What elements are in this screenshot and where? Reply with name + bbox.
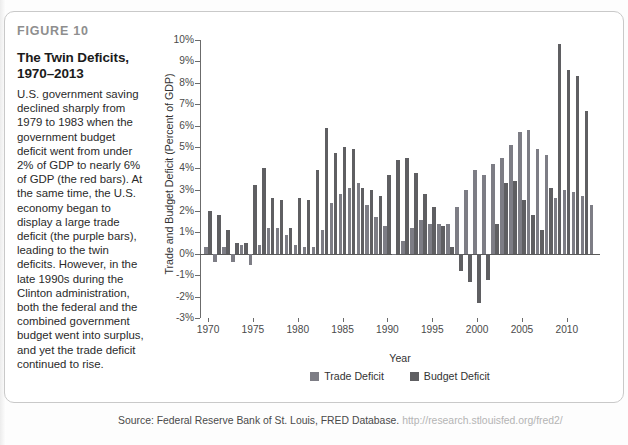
y-axis-tick	[195, 126, 200, 127]
chart-bar	[459, 254, 463, 271]
chart-bar	[267, 228, 271, 254]
x-axis-tick	[253, 318, 254, 322]
y-axis-tick	[195, 254, 200, 255]
chart-bar	[298, 198, 302, 254]
chart-bar	[446, 224, 450, 254]
chart-bar	[271, 198, 275, 254]
chart-bar	[343, 147, 347, 254]
chart-bar	[321, 230, 325, 254]
chart-bar	[585, 111, 589, 254]
chart-bar	[414, 173, 418, 254]
legend-label: Trade Deficit	[324, 370, 384, 382]
chart-bar	[330, 203, 334, 254]
chart-bar	[262, 168, 266, 254]
chart-bar	[361, 188, 365, 254]
y-axis-tick-label: 2%	[154, 205, 194, 216]
x-axis-tick	[432, 318, 433, 322]
chart-bar	[231, 254, 235, 263]
x-axis-tick-label: 1995	[412, 324, 452, 335]
chart-bar	[531, 215, 535, 253]
y-axis-tick	[195, 190, 200, 191]
y-axis-tick	[195, 211, 200, 212]
chart-bar	[213, 254, 217, 263]
chart-bar	[509, 145, 513, 254]
chart-bar	[240, 245, 244, 254]
chart-bar	[334, 153, 338, 254]
y-axis-tick	[195, 168, 200, 169]
y-axis-tick-label: 5%	[154, 141, 194, 152]
y-axis-tick-label: 0%	[154, 248, 194, 259]
chart-bar	[316, 170, 320, 253]
chart-bar	[280, 200, 284, 253]
chart-bar	[477, 254, 481, 303]
y-axis-tick-label: 1%	[154, 226, 194, 237]
chart-bar	[581, 196, 585, 254]
y-axis-tick	[195, 40, 200, 41]
chart-bar	[401, 241, 405, 254]
x-axis-tick-label: 1980	[278, 324, 318, 335]
chart-bar	[204, 247, 208, 253]
chart-bar	[500, 158, 504, 254]
chart-bar	[352, 149, 356, 254]
x-axis-tick	[477, 318, 478, 322]
x-axis-tick-label: 2005	[502, 324, 542, 335]
chart-bar	[374, 217, 378, 253]
chart-bar	[289, 228, 293, 254]
x-axis-title: Year	[200, 352, 600, 364]
chart-bar	[383, 226, 387, 254]
chart-bar	[208, 211, 212, 254]
figure-page: FIGURE 10 The Twin Deficits, 1970–2013 U…	[0, 0, 628, 445]
chart-bar	[513, 181, 517, 254]
x-axis-tick	[208, 318, 209, 322]
y-axis-tick-label: -1%	[154, 269, 194, 280]
x-axis-tick	[387, 318, 388, 322]
legend-item[interactable]: Budget Deficit	[410, 370, 490, 382]
chart-bar	[379, 196, 383, 254]
chart-bar	[522, 200, 526, 253]
y-axis-tick-label: -2%	[154, 291, 194, 302]
chart-bar	[558, 44, 562, 254]
chart-bar	[576, 76, 580, 253]
chart-bar	[285, 235, 289, 254]
chart-bar	[545, 155, 549, 253]
chart-bar	[518, 132, 522, 254]
chart-bar	[563, 190, 567, 254]
chart-bar	[222, 247, 226, 253]
zero-line	[200, 254, 600, 255]
chart-bar	[423, 194, 427, 254]
chart-bar	[396, 160, 400, 254]
y-axis-tick-label: 10%	[154, 34, 194, 45]
y-axis-tick-label: 4%	[154, 162, 194, 173]
legend-label: Budget Deficit	[424, 370, 490, 382]
y-axis-tick-label: 6%	[154, 120, 194, 131]
figure-caption: The Twin Deficits, 1970–2013 U.S. govern…	[17, 50, 145, 371]
chart-bar	[244, 243, 248, 254]
chart-legend: Trade DeficitBudget Deficit	[200, 370, 600, 382]
x-axis-tick-label: 1985	[323, 324, 363, 335]
chart-bar	[572, 192, 576, 254]
chart-bar	[217, 215, 221, 253]
chart-bar	[527, 130, 531, 254]
chart: Trade and Budget Deficit (Percent of GDP…	[152, 18, 614, 398]
chart-bar	[235, 243, 239, 254]
chart-bar	[357, 183, 361, 254]
chart-bar	[468, 254, 472, 282]
chart-bar	[365, 205, 369, 254]
source-url[interactable]: http://research.stlouisfed.org/fred2/	[402, 415, 563, 426]
chart-bar	[504, 183, 508, 254]
chart-bar	[410, 228, 414, 254]
chart-bar	[387, 175, 391, 254]
x-axis-tick-label: 1975	[233, 324, 273, 335]
legend-swatch-icon	[410, 372, 419, 381]
chart-bar	[325, 128, 329, 254]
legend-item[interactable]: Trade Deficit	[310, 370, 384, 382]
x-axis-tick-label: 2000	[457, 324, 497, 335]
x-axis-tick	[343, 318, 344, 322]
y-axis-tick	[195, 297, 200, 298]
chart-bar	[307, 200, 311, 253]
figure-label: FIGURE 10	[17, 24, 89, 38]
source-note: Source: Federal Reserve Bank of St. Loui…	[118, 415, 563, 426]
chart-bar	[419, 220, 423, 254]
y-axis-tick	[195, 147, 200, 148]
chart-bar	[450, 247, 454, 253]
